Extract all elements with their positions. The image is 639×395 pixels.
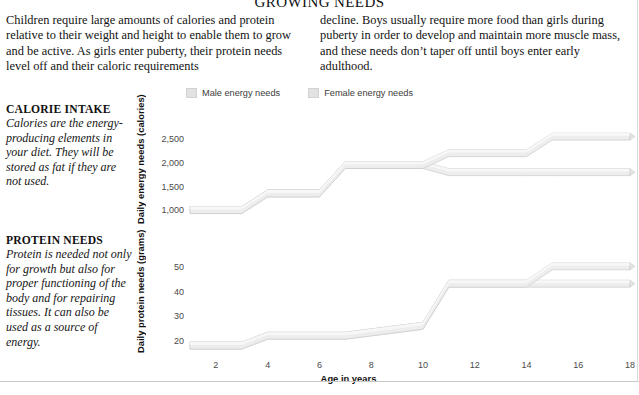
x-tick-label: 6 [317, 360, 322, 370]
infographic-page: GROWING NEEDS Children require large amo… [0, 0, 639, 395]
chart-x-axis: 24681012141618 Age in years [0, 360, 639, 394]
bottom-divider [0, 381, 639, 382]
intro-paragraph-left: Children require large amounts of calori… [6, 13, 306, 75]
x-tick-label: 12 [470, 360, 480, 370]
x-tick-label: 4 [265, 360, 270, 370]
x-tick-label: 16 [573, 360, 583, 370]
x-tick-label: 14 [521, 360, 531, 370]
chart-protein-needs: Daily protein needs (grams) 20304050 [0, 226, 639, 366]
x-tick-label: 10 [418, 360, 428, 370]
chart-energy-plot-area [0, 96, 639, 226]
page-title: GROWING NEEDS [0, 0, 639, 11]
x-tick-label: 8 [369, 360, 374, 370]
chart-calorie-intake: Daily energy needs (calories) 1,0001,500… [0, 96, 639, 226]
x-tick-label: 18 [625, 360, 635, 370]
chart-x-axis-label: Age in years [0, 373, 639, 384]
chart-protein-plot-area [0, 226, 639, 366]
right-divider [637, 0, 638, 382]
x-tick-label: 2 [213, 360, 218, 370]
intro-paragraph-right: decline. Boys usually require more food … [320, 13, 632, 75]
